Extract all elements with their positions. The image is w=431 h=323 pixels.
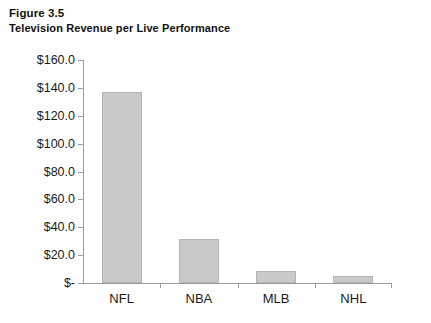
y-axis-tick-label: $120.0 [37,110,75,123]
figure-number: Figure 3.5 [9,6,409,21]
y-axis-tick-label: $60.0 [44,193,75,206]
bar-nfl [102,92,142,283]
bar-mlb [256,271,296,283]
x-axis-tick [238,283,239,288]
y-axis-tick [78,255,83,256]
bar-nba [179,239,219,283]
y-axis-tick-label: $20.0 [44,249,75,262]
figure-container: Figure 3.5 Television Revenue per Live P… [0,0,431,323]
y-axis-tick-label: $- [64,277,75,290]
x-axis-label-nfl: NFL [109,292,134,305]
figure-title: Television Revenue per Live Performance [9,21,409,36]
x-axis-label-nba: NBA [186,292,213,305]
x-axis-label-mlb: MLB [263,292,290,305]
y-axis-tick [78,199,83,200]
figure-caption: Figure 3.5 Television Revenue per Live P… [9,6,409,36]
y-axis-tick [78,283,83,284]
y-axis-tick-label: $140.0 [37,82,75,95]
y-axis-tick-label: $160.0 [37,54,75,67]
y-axis-tick-label: $100.0 [37,137,75,150]
y-axis-tick [78,144,83,145]
y-axis-tick [78,88,83,89]
y-axis-tick [78,172,83,173]
x-axis-label-nhl: NHL [340,292,366,305]
y-axis-tick [78,116,83,117]
y-axis-tick [78,60,83,61]
x-axis-tick [391,283,392,288]
y-axis-tick-label: $40.0 [44,221,75,234]
plot-area: $-$20.0$40.0$60.0$80.0$100.0$120.0$140.0… [83,60,392,283]
y-axis-tick-label: $80.0 [44,165,75,178]
bar-nhl [333,276,373,283]
x-axis-tick [315,283,316,288]
x-axis-tick [160,283,161,288]
y-axis-line [83,60,84,283]
y-axis-tick [78,227,83,228]
